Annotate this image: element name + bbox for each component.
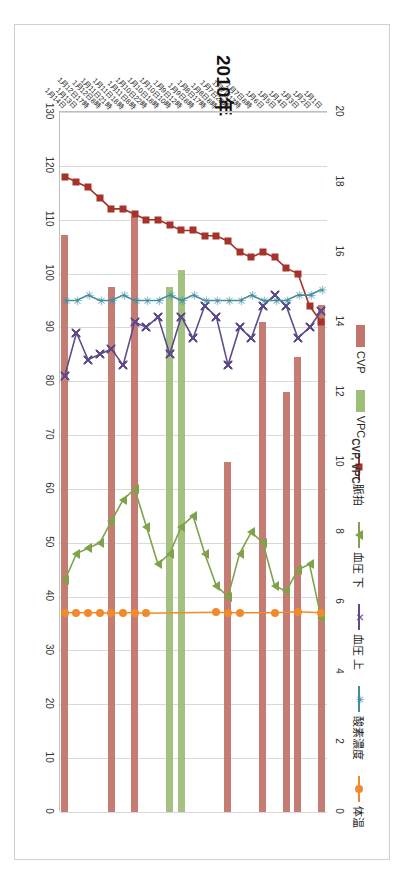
chart-page: 2010年 CVPVPC脈拍血圧 下✕血圧 上✳酸素濃度体温 CVP, VPC … [0, 0, 404, 882]
chart-frame: 2010年 CVPVPC脈拍血圧 下✕血圧 上✳酸素濃度体温 CVP, VPC … [14, 24, 390, 860]
category-axis-labels: 1月1日1月2日1月3日1月4日1月5日1月6日1月7日8時1月7日17時1月7… [59, 25, 327, 111]
secondary-tick-label: 14 [334, 315, 345, 326]
primary-tick-label: 70 [44, 429, 55, 440]
primary-axis-ticks: 1301201101009080706050403020100 [39, 111, 55, 811]
primary-tick-label: 90 [44, 321, 55, 332]
secondary-tick-label: 2 [334, 738, 345, 744]
primary-tick-label: 120 [44, 157, 55, 174]
secondary-tick-label: 16 [334, 245, 345, 256]
primary-tick-label: 40 [44, 590, 55, 601]
primary-tick-label: 20 [44, 698, 55, 709]
rotated-chart-canvas: 2010年 CVPVPC脈拍血圧 下✕血圧 上✳酸素濃度体温 CVP, VPC … [0, 0, 404, 882]
primary-tick-label: 10 [44, 752, 55, 763]
secondary-tick-label: 4 [334, 668, 345, 674]
primary-tick-label: 80 [44, 375, 55, 386]
plot-area: ✳✳✳✳✳✳✳✳✳✳✳✳✳✳✳✳✳✳✳✳✳✳✳ [59, 111, 327, 811]
primary-tick-label: 60 [44, 482, 55, 493]
secondary-axis-ticks: 20181614121086420 [329, 111, 345, 811]
secondary-tick-label: 12 [334, 385, 345, 396]
secondary-tick-label: 18 [334, 175, 345, 186]
series-lines [59, 112, 327, 812]
primary-tick-label: 100 [44, 264, 55, 281]
primary-tick-label: 130 [44, 103, 55, 120]
secondary-axis-title: CVP, VPC [350, 111, 361, 811]
primary-tick-label: 50 [44, 536, 55, 547]
secondary-tick-label: 10 [334, 455, 345, 466]
secondary-tick-label: 6 [334, 598, 345, 604]
primary-tick-label: 30 [44, 644, 55, 655]
primary-tick-label: 110 [44, 211, 55, 227]
primary-tick-label: 0 [44, 808, 55, 814]
secondary-tick-label: 0 [334, 808, 345, 814]
secondary-tick-label: 8 [334, 528, 345, 534]
gridline [60, 812, 327, 813]
secondary-tick-label: 20 [334, 105, 345, 116]
